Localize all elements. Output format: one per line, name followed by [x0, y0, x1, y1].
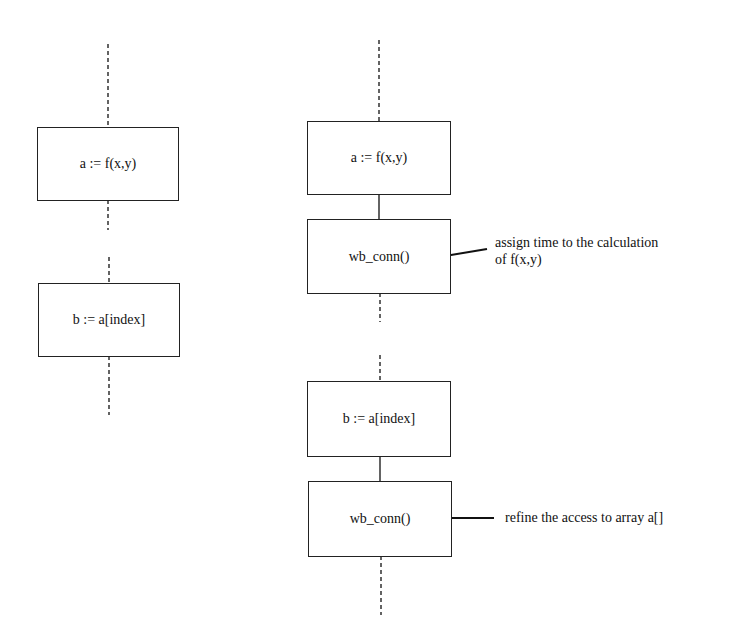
right-box-wbconn-2: wb_conn(): [308, 481, 452, 557]
box-text: b := a[index]: [73, 312, 145, 328]
annotation-1: assign time to the calculation of f(x,y): [495, 234, 658, 268]
right-box-wbconn-1: wb_conn(): [307, 219, 451, 294]
right-box-assign-b: b := a[index]: [307, 381, 451, 457]
annotation-1-line1: assign time to the calculation: [495, 234, 658, 251]
left-box-assign-b: b := a[index]: [38, 283, 180, 357]
annotation-2: refine the access to array a[]: [505, 509, 663, 526]
box-text: a := f(x,y): [80, 156, 137, 172]
box-text: b := a[index]: [343, 411, 415, 427]
right-box-assign-a: a := f(x,y): [307, 121, 451, 195]
annotation-1-line2: of f(x,y): [495, 251, 658, 268]
left-box-assign-a: a := f(x,y): [37, 127, 179, 201]
box-text: a := f(x,y): [351, 150, 408, 166]
box-text: wb_conn(): [350, 511, 411, 527]
annotation-2-line1: refine the access to array a[]: [505, 509, 663, 526]
box-text: wb_conn(): [349, 249, 410, 265]
diagram-canvas: a := f(x,y) b := a[index] a := f(x,y) wb…: [0, 0, 736, 641]
